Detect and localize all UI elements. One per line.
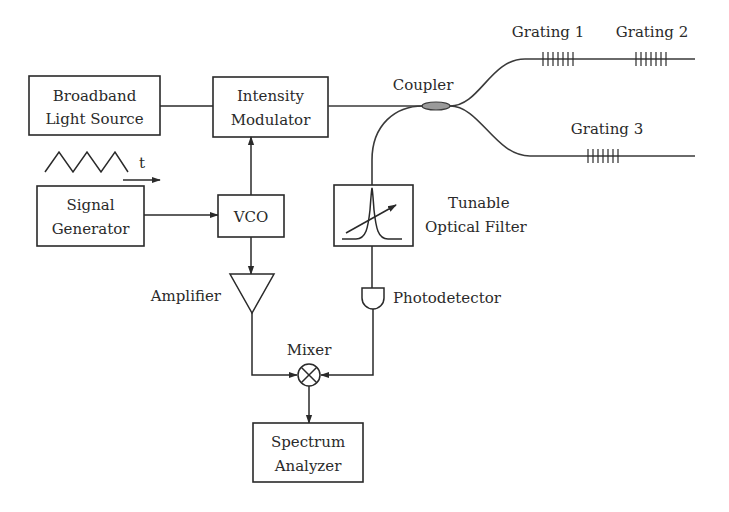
filter-label-line1: Tunable xyxy=(448,194,510,212)
signal-generator-label-line2: Generator xyxy=(52,220,131,238)
coupler-label: Coupler xyxy=(393,76,454,94)
grating3-label: Grating 3 xyxy=(571,120,644,138)
photodetector-label: Photodetector xyxy=(393,289,502,307)
modulator-label-line2: Modulator xyxy=(231,111,311,129)
spectrum-analyzer-label-line2: Analyzer xyxy=(274,457,342,475)
grating1-icon xyxy=(543,52,573,66)
broadband-label-line2: Light Source xyxy=(45,110,143,128)
signal-generator-block: Signal Generator xyxy=(37,186,144,246)
coupler-icon xyxy=(422,102,450,110)
spectrum-analyzer-block: Spectrum Analyzer xyxy=(253,423,363,482)
grating1-label: Grating 1 xyxy=(512,23,585,41)
mixer-label: Mixer xyxy=(287,341,332,359)
tunable-optical-filter-block xyxy=(334,185,413,246)
fiber-upper-branch xyxy=(450,59,695,106)
grating3-icon xyxy=(588,149,618,163)
amplifier-label: Amplifier xyxy=(150,287,222,305)
intensity-modulator-block: Intensity Modulator xyxy=(213,77,328,137)
grating2-icon xyxy=(636,52,666,66)
photodetector-icon xyxy=(362,288,384,309)
grating2-label: Grating 2 xyxy=(616,23,689,41)
broadband-light-source-block: Broadband Light Source xyxy=(29,76,160,135)
modulator-label-line1: Intensity xyxy=(237,87,305,105)
signal-generator-label-line1: Signal xyxy=(66,196,114,214)
time-axis-label: t xyxy=(139,154,145,172)
vco-block: VCO xyxy=(218,195,284,237)
mixer-icon xyxy=(298,364,320,386)
fiber-coupler-to-filter xyxy=(372,106,423,185)
filter-label-line2: Optical Filter xyxy=(425,218,528,236)
spectrum-analyzer-label-line1: Spectrum xyxy=(271,433,345,451)
diagram-canvas: Broadband Light Source Intensity Modulat… xyxy=(0,0,729,512)
broadband-label-line1: Broadband xyxy=(53,87,137,105)
vco-label: VCO xyxy=(233,208,269,226)
triangle-wave-icon xyxy=(45,152,128,172)
amplifier-icon xyxy=(230,274,274,313)
